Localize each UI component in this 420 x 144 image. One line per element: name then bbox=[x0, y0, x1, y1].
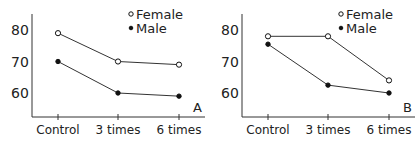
data-point-male bbox=[387, 91, 391, 95]
legend-marker-male bbox=[339, 26, 343, 30]
legend-label-male: Male bbox=[346, 21, 377, 36]
x-tick-label: Control bbox=[246, 123, 289, 137]
line-chart-panels: 607080Control3 times6 timesFemaleMaleA60… bbox=[0, 0, 420, 144]
series-line-female bbox=[268, 36, 389, 80]
legend-marker-female bbox=[339, 12, 343, 16]
y-tick-label: 80 bbox=[11, 22, 29, 38]
data-point-female bbox=[265, 34, 270, 39]
legend-label-female: Female bbox=[136, 7, 183, 22]
panel-label: B bbox=[403, 100, 412, 115]
legend-label-female: Female bbox=[346, 7, 393, 22]
legend: FemaleMale bbox=[129, 7, 183, 36]
data-point-male bbox=[116, 91, 120, 95]
legend-marker-male bbox=[129, 26, 133, 30]
data-point-female bbox=[176, 62, 181, 67]
y-tick-label: 70 bbox=[221, 54, 239, 70]
figure: 607080Control3 times6 timesFemaleMaleA60… bbox=[0, 0, 420, 144]
y-tick-label: 60 bbox=[221, 85, 239, 101]
data-point-female bbox=[115, 59, 120, 64]
data-point-female bbox=[386, 78, 391, 83]
x-tick-label: 3 times bbox=[96, 123, 141, 137]
data-point-male bbox=[266, 42, 270, 46]
legend-marker-female bbox=[129, 12, 133, 16]
data-point-male bbox=[56, 59, 60, 63]
data-point-male bbox=[326, 83, 330, 87]
y-tick-label: 80 bbox=[221, 22, 239, 38]
legend: FemaleMale bbox=[339, 7, 393, 36]
x-tick-label: 6 times bbox=[367, 123, 412, 137]
x-tick-label: 6 times bbox=[157, 123, 202, 137]
panel-b: 607080Control3 times6 timesFemaleMaleB bbox=[221, 7, 415, 137]
panel-a: 607080Control3 times6 timesFemaleMaleA bbox=[11, 7, 205, 137]
data-point-female bbox=[325, 34, 330, 39]
x-tick-label: 3 times bbox=[306, 123, 351, 137]
y-tick-label: 70 bbox=[11, 54, 29, 70]
y-tick-label: 60 bbox=[11, 85, 29, 101]
data-point-male bbox=[177, 94, 181, 98]
data-point-female bbox=[55, 31, 60, 36]
x-tick-label: Control bbox=[36, 123, 79, 137]
legend-label-male: Male bbox=[136, 21, 167, 36]
panel-label: A bbox=[193, 100, 202, 115]
